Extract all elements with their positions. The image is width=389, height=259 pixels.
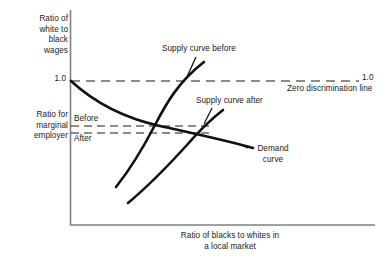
economics-supply-demand-figure: Ratio of white to black wages Ratio for … bbox=[0, 0, 389, 259]
supply-before-leader-line bbox=[186, 57, 196, 79]
y-axis-title: Ratio of white to black wages bbox=[28, 14, 68, 56]
y-axis-subtitle: Ratio for marginal employer bbox=[6, 110, 68, 142]
supply-curve-before bbox=[116, 62, 204, 187]
y-tick-label-1-0-right: 1.0 bbox=[362, 73, 386, 84]
supply-curve-after bbox=[128, 110, 223, 203]
supply-curve-before-label: Supply curve before bbox=[162, 44, 254, 55]
zero-discrimination-line-label: Zero discrimination line bbox=[287, 84, 387, 95]
demand-curve-label: Demand curve bbox=[249, 144, 297, 165]
before-ratio-label: Before bbox=[74, 114, 114, 125]
y-tick-label-1-0-left: 1.0 bbox=[30, 74, 66, 85]
after-ratio-label: After bbox=[74, 134, 114, 145]
x-axis-title: Ratio of blacks to whites in a local mar… bbox=[140, 231, 320, 252]
supply-curve-after-label: Supply curve after bbox=[196, 96, 278, 107]
